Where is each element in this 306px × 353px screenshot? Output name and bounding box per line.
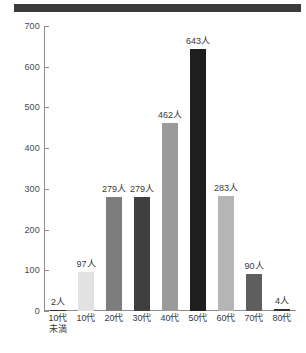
bar-value-label: 462人 xyxy=(158,108,182,121)
bar-value-label: 4人 xyxy=(275,294,289,307)
bar[interactable] xyxy=(134,197,150,311)
bar-item[interactable]: 4人 xyxy=(274,26,290,311)
x-axis-label-line1: 10代 xyxy=(76,313,95,323)
x-axis-label-line1: 80代 xyxy=(272,313,291,323)
bar[interactable] xyxy=(218,196,234,311)
y-axis-tick-label: 600 xyxy=(24,62,40,72)
y-axis-tick xyxy=(44,26,49,27)
bar-item[interactable]: 462人 xyxy=(162,26,178,311)
x-axis-tick-label: 70代 xyxy=(240,313,268,324)
y-axis-tick-label: 0 xyxy=(35,306,40,316)
bar[interactable] xyxy=(246,274,262,311)
y-axis-tick xyxy=(44,270,49,271)
x-axis-tick-label: 50代 xyxy=(184,313,212,324)
x-axis-tick-label: 30代 xyxy=(128,313,156,324)
bar[interactable] xyxy=(106,197,122,311)
bar-value-label: 279人 xyxy=(130,182,154,195)
bar[interactable] xyxy=(78,272,94,311)
x-axis-label-line2: 未満 xyxy=(44,324,72,335)
bar-value-label: 2人 xyxy=(51,295,65,308)
bar-item[interactable]: 279人 xyxy=(134,26,150,311)
x-axis-label-line1: 70代 xyxy=(244,313,263,323)
plot-area: 2人97人279人279人462人643人283人90人4人 xyxy=(44,26,296,311)
x-axis-label-line1: 40代 xyxy=(160,313,179,323)
y-axis-tick xyxy=(44,311,49,312)
y-axis-tick xyxy=(44,107,49,108)
bar[interactable] xyxy=(190,49,206,311)
x-axis-label-line1: 50代 xyxy=(188,313,207,323)
top-divider-band xyxy=(14,4,301,12)
x-axis-tick-label: 10代 xyxy=(72,313,100,324)
x-axis-tick-label: 60代 xyxy=(212,313,240,324)
y-axis-tick-label: 500 xyxy=(24,102,40,112)
y-axis-tick xyxy=(44,189,49,190)
bar-item[interactable]: 90人 xyxy=(246,26,262,311)
x-axis-label-line1: 20代 xyxy=(104,313,123,323)
bar-item[interactable]: 97人 xyxy=(78,26,94,311)
y-axis-tick-label: 100 xyxy=(24,265,40,275)
bar-value-label: 643人 xyxy=(186,34,210,47)
bar-value-label: 90人 xyxy=(244,259,263,272)
bar-value-label: 97人 xyxy=(76,257,95,270)
y-axis-tick xyxy=(44,230,49,231)
y-axis-tick xyxy=(44,67,49,68)
y-axis-tick xyxy=(44,148,49,149)
y-axis-tick-label: 700 xyxy=(24,21,40,31)
x-axis-label-line1: 30代 xyxy=(132,313,151,323)
x-axis-tick-label: 10代未満 xyxy=(44,313,72,335)
x-axis-tick-label: 40代 xyxy=(156,313,184,324)
bar-item[interactable]: 279人 xyxy=(106,26,122,311)
x-axis-label-line1: 60代 xyxy=(216,313,235,323)
y-axis-tick-label: 400 xyxy=(24,143,40,153)
bar-value-label: 279人 xyxy=(102,182,126,195)
x-axis-label-line1: 10代 xyxy=(48,313,67,323)
y-axis-tick-label: 200 xyxy=(24,225,40,235)
bar[interactable] xyxy=(50,310,66,312)
y-axis-tick-label: 300 xyxy=(24,184,40,194)
x-axis-tick-label: 80代 xyxy=(268,313,296,324)
chart-canvas: 0100200300400500600700 2人97人279人279人462人… xyxy=(0,0,306,353)
bar-value-label: 283人 xyxy=(214,181,238,194)
y-axis-line xyxy=(44,26,45,311)
bar-item[interactable]: 2人 xyxy=(50,26,66,311)
x-axis-tick-label: 20代 xyxy=(100,313,128,324)
y-axis-tick-labels: 0100200300400500600700 xyxy=(0,26,40,311)
bar-item[interactable]: 643人 xyxy=(190,26,206,311)
bar-item[interactable]: 283人 xyxy=(218,26,234,311)
bar[interactable] xyxy=(274,309,290,311)
x-axis-tick-labels: 10代未満10代20代30代40代50代60代70代80代 xyxy=(44,313,296,347)
bar[interactable] xyxy=(162,123,178,311)
